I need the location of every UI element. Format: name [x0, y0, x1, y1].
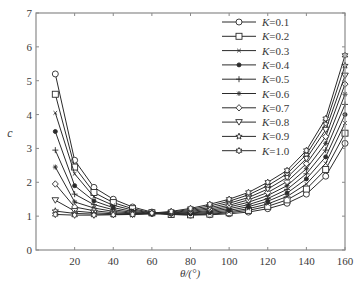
y-tick-label: 7 — [27, 7, 33, 19]
legend-item: K=0.8 — [222, 116, 290, 128]
legend-item: K=0.9 — [222, 130, 290, 142]
dot-marker-icon — [53, 130, 57, 134]
series-k-0-2 — [52, 91, 348, 218]
x-axis-label: θ/(°) — [180, 267, 201, 280]
legend-label: K=0.4 — [261, 59, 290, 71]
circle-marker-icon — [323, 173, 329, 179]
legend-item: K=0.3 — [222, 45, 290, 57]
pentagram-legend-icon — [236, 133, 242, 139]
legend-label: K=0.2 — [261, 30, 289, 42]
hexagram-legend-icon — [236, 148, 242, 154]
y-tick-label: 4 — [27, 109, 33, 121]
x-marker-icon — [305, 182, 309, 186]
plus-marker-icon — [72, 191, 78, 197]
dot-marker-icon — [304, 177, 308, 181]
y-axis-label: c — [7, 126, 13, 140]
legend-label: K=0.6 — [261, 88, 290, 100]
series-layer — [52, 52, 348, 218]
x-marker-icon — [324, 162, 328, 166]
x-tick-label: 80 — [185, 255, 197, 267]
series-line — [55, 74, 345, 215]
legend-label: K=0.3 — [261, 45, 290, 57]
dot-legend-icon — [237, 63, 241, 67]
series-line — [55, 94, 345, 214]
x-tick-label: 100 — [221, 255, 238, 267]
y-tick-label: 5 — [27, 75, 33, 87]
legend-item: K=0.5 — [222, 73, 290, 85]
x-tick-label: 20 — [69, 255, 81, 267]
legend-item: K=0.2 — [222, 30, 289, 42]
legend-label: K=1.0 — [261, 145, 290, 157]
asterisk-marker-icon — [53, 165, 58, 170]
x-tick-label: 120 — [260, 255, 277, 267]
square-marker-icon — [323, 166, 329, 172]
line-chart: K=0.1K=0.2K=0.3K=0.4K=0.5K=0.6K=0.7K=0.8… — [0, 0, 361, 286]
x-tick-label: 40 — [108, 255, 120, 267]
axes: 2040608010012014016001234567 — [27, 7, 354, 267]
legend-label: K=0.9 — [261, 130, 290, 142]
circle-legend-icon — [236, 19, 242, 25]
asterisk-marker-icon — [323, 141, 328, 146]
legend-item: K=0.7 — [222, 102, 290, 114]
x-tick-label: 60 — [146, 255, 158, 267]
y-tick-label: 1 — [27, 210, 33, 222]
x-tick-label: 140 — [298, 255, 315, 267]
legend-item: K=0.1 — [222, 16, 289, 28]
circle-marker-icon — [52, 71, 58, 77]
square-marker-icon — [303, 186, 309, 192]
x-tick-label: 160 — [337, 255, 354, 267]
y-tick-label: 6 — [27, 41, 33, 53]
legend-label: K=0.5 — [261, 73, 290, 85]
legend-item: K=0.4 — [222, 59, 290, 71]
legend-label: K=0.7 — [261, 102, 290, 114]
series-line — [55, 55, 345, 215]
square-legend-icon — [236, 33, 242, 39]
triangle-down-marker-icon — [52, 198, 59, 204]
series-line — [55, 84, 345, 214]
legend-item: K=0.6 — [222, 88, 290, 100]
y-tick-label: 2 — [27, 176, 33, 188]
series-k-0-1 — [52, 71, 348, 218]
series-k-0-5 — [52, 101, 348, 216]
series-k-0-4 — [53, 113, 347, 217]
plus-legend-icon — [236, 76, 242, 82]
legend-label: K=0.1 — [261, 16, 289, 28]
dot-marker-icon — [324, 155, 328, 159]
y-tick-label: 0 — [27, 244, 33, 256]
legend-item: K=1.0 — [222, 145, 290, 157]
y-tick-label: 3 — [27, 142, 33, 154]
series-line — [55, 76, 345, 214]
plus-marker-icon — [52, 147, 58, 153]
asterisk-legend-icon — [237, 91, 242, 96]
legend: K=0.1K=0.2K=0.3K=0.4K=0.5K=0.6K=0.7K=0.8… — [222, 16, 290, 157]
dot-marker-icon — [73, 184, 77, 188]
square-marker-icon — [52, 91, 58, 97]
legend-label: K=0.8 — [261, 116, 290, 128]
diamond-legend-icon — [236, 105, 242, 111]
